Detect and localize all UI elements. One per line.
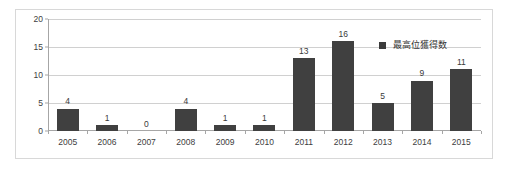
bar-group: 42005	[48, 19, 87, 131]
legend-label: 最高位獲得数	[393, 41, 447, 50]
x-tick-mark	[205, 131, 206, 134]
x-tick-label: 2006	[98, 138, 117, 147]
x-tick-label: 2005	[58, 138, 77, 147]
x-tick-mark	[481, 131, 482, 134]
chart-legend: 最高位獲得数	[379, 41, 447, 50]
bar-group: 162012	[324, 19, 363, 131]
bar-group: 42008	[166, 19, 205, 131]
x-tick-mark	[127, 131, 128, 134]
bar-value-label: 4	[65, 97, 70, 106]
bar-value-label: 4	[183, 97, 188, 106]
x-tick-mark	[245, 131, 246, 134]
x-tick-mark	[87, 131, 88, 134]
bar[interactable]	[253, 125, 275, 131]
bar[interactable]	[214, 125, 236, 131]
x-tick-label: 2012	[334, 138, 353, 147]
bar-value-label: 0	[144, 120, 149, 129]
x-tick-mark	[284, 131, 285, 134]
bar-group: 52013	[363, 19, 402, 131]
x-tick-mark	[363, 131, 364, 134]
bar-group: 02007	[127, 19, 166, 131]
x-tick-mark	[48, 131, 49, 134]
x-tick-label: 2008	[176, 138, 195, 147]
x-tick-label: 2007	[137, 138, 156, 147]
bar[interactable]	[293, 58, 315, 131]
bar[interactable]	[332, 41, 354, 131]
x-tick-mark	[402, 131, 403, 134]
bar-value-label: 1	[105, 114, 110, 123]
x-tick-label: 2015	[452, 138, 471, 147]
bar[interactable]	[372, 103, 394, 131]
bar[interactable]	[411, 81, 433, 131]
chart-frame: 05101520 4200512006020074200812009120101…	[15, 9, 493, 159]
plot-area: 05101520 4200512006020074200812009120101…	[48, 19, 481, 131]
bar[interactable]	[450, 69, 472, 131]
legend-marker-icon	[379, 42, 386, 49]
bar-group: 12009	[205, 19, 244, 131]
x-tick-label: 2009	[216, 138, 235, 147]
x-tick-mark	[324, 131, 325, 134]
x-tick-label: 2011	[295, 138, 313, 147]
bar-group: 132011	[284, 19, 323, 131]
bar-group: 12006	[87, 19, 126, 131]
bar-value-label: 13	[299, 47, 308, 56]
bars-layer: 4200512006020074200812009120101320111620…	[48, 19, 481, 131]
bar-value-label: 1	[262, 114, 267, 123]
x-tick-label: 2014	[412, 138, 431, 147]
y-tick-label: 15	[34, 43, 43, 52]
y-tick-label: 0	[38, 127, 43, 136]
bar[interactable]	[175, 109, 197, 131]
bar-value-label: 9	[420, 69, 425, 78]
bar-group: 112015	[442, 19, 481, 131]
y-tick-label: 5	[38, 99, 43, 108]
bar[interactable]	[57, 109, 79, 131]
bar-value-label: 1	[223, 114, 228, 123]
x-tick-label: 2013	[373, 138, 392, 147]
x-tick-mark	[442, 131, 443, 134]
bar-value-label: 11	[457, 58, 466, 67]
x-tick-mark	[166, 131, 167, 134]
y-tick-label: 10	[34, 71, 43, 80]
bar-group: 12010	[245, 19, 284, 131]
bar-value-label: 16	[338, 30, 347, 39]
bar[interactable]	[96, 125, 118, 131]
bar-value-label: 5	[380, 92, 385, 101]
y-tick-label: 20	[34, 15, 43, 24]
bar-group: 92014	[402, 19, 441, 131]
x-tick-label: 2010	[255, 138, 274, 147]
